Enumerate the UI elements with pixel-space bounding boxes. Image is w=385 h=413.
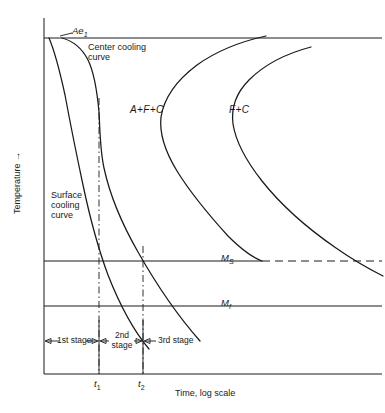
stage-label-3rd: 3rd stage bbox=[158, 336, 193, 346]
center-cooling-curve-label: Center cooling curve bbox=[88, 42, 146, 62]
ae1-leader-line bbox=[60, 33, 72, 36]
x-tick-t2-sub: 2 bbox=[141, 384, 145, 391]
ttt-diagram-figure: Temperature → Ae1 MS Mf A+F+C F+C Center… bbox=[0, 0, 385, 413]
isotherm-ms-label-text: M bbox=[221, 252, 229, 263]
isotherm-ae1-label: Ae1 bbox=[72, 26, 88, 39]
isotherm-mf-label-sub: f bbox=[229, 303, 231, 310]
stage-label-1st: 1st stage bbox=[57, 336, 92, 346]
x-tick-label-t2: t2 bbox=[138, 379, 145, 392]
transformation-finish-curve bbox=[233, 47, 383, 276]
isotherm-mf-label-text: M bbox=[221, 297, 229, 308]
x-tick-t1-sub: 1 bbox=[97, 384, 101, 391]
isotherm-ms-label-sub: S bbox=[229, 258, 234, 265]
y-axis-title-text: Temperature bbox=[12, 164, 22, 215]
stage-label-2nd: 2nd stage bbox=[108, 331, 136, 350]
phase-region-label-fc: F+C bbox=[229, 104, 249, 115]
transformation-start-curve bbox=[161, 36, 266, 261]
phase-region-label-afc: A+F+C bbox=[130, 104, 164, 115]
center-cooling-curve bbox=[62, 38, 200, 341]
surface-cooling-curve-label: Surface cooling curve bbox=[51, 190, 82, 220]
isotherm-ae1-label-text: Ae bbox=[72, 25, 84, 36]
isotherm-mf-label: Mf bbox=[221, 298, 231, 311]
y-axis-arrow-icon: → bbox=[12, 152, 22, 161]
x-axis-title: Time, log scale bbox=[175, 388, 235, 398]
y-axis-title: Temperature → bbox=[12, 128, 22, 238]
x-tick-label-t1: t1 bbox=[94, 379, 101, 392]
isotherm-ms-label: MS bbox=[221, 253, 234, 266]
isotherm-ae1-label-sub: 1 bbox=[84, 31, 88, 38]
